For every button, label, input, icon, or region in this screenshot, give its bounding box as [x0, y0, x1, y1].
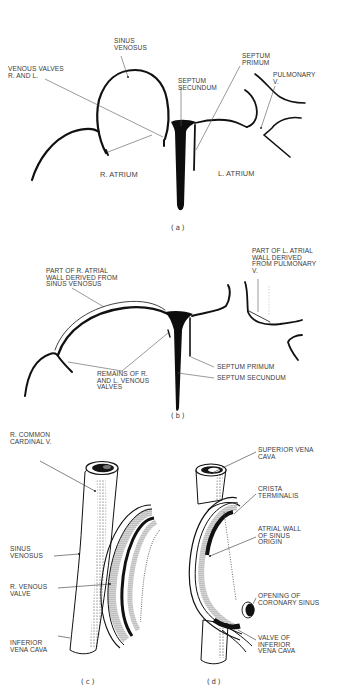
panel-a-drawing: [32, 70, 305, 180]
panel-caption-a: (a): [170, 223, 186, 232]
label-pulmonary-v: PULMONARY V.: [273, 72, 316, 85]
label-inferior-vena-cava-c: INFERIOR VENA CAVA: [10, 640, 47, 653]
label-sinus-venosus-a: SINUS VENOSUS: [114, 38, 147, 51]
label-septum-secundum-a: SEPTUM SECUNDUM: [178, 78, 217, 91]
diagram-artwork: [0, 0, 349, 694]
label-valve-inferior-vena-cava: VALVE OF INFERIOR VENA CAVA: [258, 635, 295, 655]
label-sinus-venosus-c: SINUS VENOSUS: [10, 546, 43, 559]
panel-caption-d: (d): [206, 677, 222, 686]
embryonic-heart-septation-figure: SINUS VENOSUS VENOUS VALVES R. AND L. SE…: [0, 0, 349, 694]
panel-caption-b: (b): [170, 411, 186, 420]
label-septum-secundum-b: SEPTUM SECUNDUM: [217, 375, 286, 382]
label-r-atrial-wall-sinus: PART OF R. ATRIAL WALL DERIVED FROM SINU…: [46, 268, 118, 288]
label-remains-venous-valves: REMAINS OF R. AND L. VENOUS VALVES: [97, 371, 149, 391]
label-r-common-cardinal-v: R. COMMON CARDINAL V.: [10, 432, 52, 445]
label-r-venous-valve: R. VENOUS VALVE: [10, 584, 47, 597]
panel-c-drawing: [70, 462, 160, 654]
label-septum-primum-b: SEPTUM PRIMUM: [217, 364, 274, 371]
panel-caption-c: (c): [80, 677, 96, 686]
label-l-atrium: L. ATRIUM: [218, 170, 255, 178]
label-r-atrium: R. ATRIUM: [100, 171, 138, 179]
septum-secundum-b-shape: [165, 311, 193, 411]
label-l-atrial-wall-pulmonary: PART OF L. ATRIAL WALL DERIVED FROM PULM…: [252, 248, 316, 274]
label-crista-terminalis: CRISTA TERMINALIS: [258, 486, 299, 499]
label-atrial-wall-sinus-origin: ATRIAL WALL OF SINUS ORIGIN: [258, 526, 301, 546]
label-septum-primum-a: SEPTUM PRIMUM: [242, 53, 270, 66]
label-venous-valves: VENOUS VALVES R. AND L.: [8, 66, 64, 79]
label-superior-vena-cava: SUPERIOR VENA CAVA: [258, 447, 314, 460]
septum-secundum-a-shape: [171, 120, 196, 211]
label-opening-coronary-sinus: OPENING OF CORONARY SINUS: [258, 593, 319, 606]
